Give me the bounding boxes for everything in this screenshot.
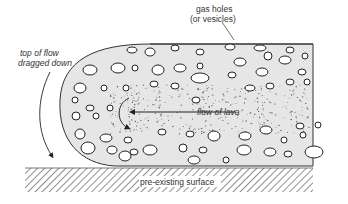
- stipple-dot: [138, 103, 139, 104]
- stipple-dot: [258, 122, 259, 123]
- stipple-dot: [302, 96, 303, 97]
- vesicle: [315, 122, 321, 128]
- stipple-dot: [156, 122, 157, 123]
- stipple-dot: [135, 101, 136, 102]
- stipple-dot: [289, 98, 290, 99]
- stipple-dot: [133, 100, 134, 101]
- vesicle: [130, 149, 138, 155]
- stipple-dot: [292, 90, 293, 91]
- stipple-dot: [168, 120, 169, 121]
- vesicle: [239, 132, 251, 140]
- vesicle: [234, 58, 246, 66]
- stipple-dot: [242, 121, 243, 122]
- vesicle: [171, 83, 179, 89]
- stipple-dot: [254, 114, 255, 115]
- stipple-dot: [262, 95, 263, 96]
- stipple-dot: [231, 128, 232, 129]
- stipple-dot: [258, 111, 259, 112]
- stipple-dot: [245, 120, 246, 121]
- stipple-dot: [138, 92, 139, 93]
- stipple-dot: [223, 95, 224, 96]
- stipple-dot: [266, 119, 267, 120]
- stipple-dot: [159, 107, 160, 108]
- stipple-dot: [192, 118, 193, 119]
- vesicle: [225, 44, 235, 50]
- stipple-dot: [181, 88, 182, 89]
- stipple-dot: [180, 94, 181, 95]
- stipple-dot: [179, 128, 180, 129]
- stipple-dot: [145, 88, 146, 89]
- stipple-dot: [291, 111, 292, 112]
- stipple-dot: [201, 133, 202, 134]
- stipple-dot: [307, 107, 308, 108]
- stipple-dot: [177, 90, 178, 91]
- stipple-dot: [152, 104, 153, 105]
- stipple-dot: [143, 98, 144, 99]
- stipple-dot: [131, 95, 132, 96]
- vesicle: [145, 48, 155, 56]
- stipple-dot: [222, 99, 223, 100]
- stipple-dot: [115, 95, 116, 96]
- stipple-dot: [207, 88, 208, 89]
- vesicle: [119, 151, 131, 161]
- top-of-flow-label-line1: top of flow: [20, 48, 60, 58]
- stipple-dot: [261, 88, 262, 89]
- stipple-dot: [208, 87, 209, 88]
- stipple-dot: [242, 128, 243, 129]
- stipple-dot: [187, 94, 188, 95]
- stipple-dot: [297, 97, 298, 98]
- stipple-dot: [113, 102, 114, 103]
- stipple-dot: [308, 127, 309, 128]
- stipple-dot: [223, 94, 224, 95]
- stipple-dot: [169, 95, 170, 96]
- stipple-dot: [171, 97, 172, 98]
- stipple-dot: [129, 121, 130, 122]
- stipple-dot: [139, 103, 140, 104]
- stipple-dot: [160, 105, 161, 106]
- stipple-dot: [267, 120, 268, 121]
- stipple-dot: [120, 103, 121, 104]
- vesicle: [228, 72, 236, 78]
- stipple-dot: [203, 91, 204, 92]
- stipple-dot: [306, 98, 307, 99]
- vesicle: [279, 56, 291, 64]
- stipple-dot: [110, 116, 111, 117]
- stipple-dot: [111, 122, 112, 123]
- vesicle: [124, 137, 132, 143]
- vesicle: [191, 73, 209, 83]
- vesicle: [208, 131, 220, 141]
- stipple-dot: [287, 132, 288, 133]
- stipple-dot: [205, 103, 206, 104]
- stipple-dot: [212, 88, 213, 89]
- stipple-dot: [139, 93, 140, 94]
- gas-holes-label-line1: gas holes: [196, 4, 232, 14]
- stipple-dot: [262, 102, 263, 103]
- stipple-dot: [275, 114, 276, 115]
- vesicle: [304, 79, 310, 85]
- stipple-dot: [259, 126, 260, 127]
- stipple-dot: [269, 112, 270, 113]
- stipple-dot: [155, 113, 156, 114]
- stipple-dot: [253, 117, 254, 118]
- stipple-dot: [161, 113, 162, 114]
- stipple-dot: [136, 129, 137, 130]
- vesicle: [300, 132, 306, 138]
- stipple-dot: [125, 128, 126, 129]
- stipple-dot: [228, 102, 229, 103]
- stipple-dot: [158, 87, 159, 88]
- stipple-dot: [140, 120, 141, 121]
- stipple-dot: [206, 85, 207, 86]
- stipple-dot: [225, 101, 226, 102]
- gas-holes-label-line2: (or vesicles): [190, 14, 236, 24]
- stipple-dot: [207, 99, 208, 100]
- stipple-dot: [244, 99, 245, 100]
- stipple-dot: [138, 97, 139, 98]
- stipple-dot: [154, 90, 155, 91]
- vesicle: [286, 79, 294, 85]
- stipple-dot: [234, 89, 235, 90]
- pre-existing-surface-label: pre-existing surface: [140, 177, 214, 187]
- stipple-dot: [201, 131, 202, 132]
- stipple-dot: [285, 106, 286, 107]
- flow-of-lava-label: flow of lava: [197, 107, 240, 117]
- stipple-dot: [223, 99, 224, 100]
